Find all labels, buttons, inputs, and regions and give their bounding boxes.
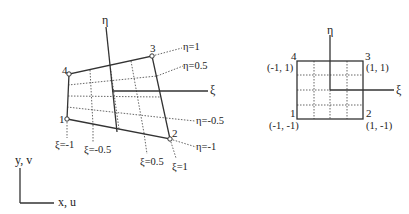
xi-0.5-label: ξ=0.5 <box>140 156 164 168</box>
node-3-label: 3 <box>150 42 156 54</box>
ref-node-1-coords: (-1, -1) <box>269 120 299 132</box>
xi-neg0.5-line <box>90 70 93 125</box>
xi-axis-label: ξ <box>210 83 216 97</box>
physical-element: η ξ 1 2 3 4 η=1 η=0.5 η=-0.5 η=-1 ξ=-1 ξ… <box>55 13 224 173</box>
node-2-label: 2 <box>172 127 178 139</box>
xi-1-extension <box>170 139 176 158</box>
ref-node-1-label: 1 <box>290 107 296 119</box>
node-1 <box>65 117 69 121</box>
ref-eta-axis-label: η <box>327 23 333 37</box>
node-3 <box>150 54 154 58</box>
eta-1-label: η=1 <box>183 41 200 52</box>
node-4-label: 4 <box>62 64 68 76</box>
reference-element: η ξ 1 2 3 4 (-1, -1) (1, -1) (1, 1) (-1,… <box>267 23 402 132</box>
eta-axis-label: η <box>102 13 108 27</box>
xi-neg1-label: ξ=-1 <box>55 139 74 151</box>
eta-0.5-extension <box>157 66 183 76</box>
eta-neg1-label: η=-1 <box>196 141 216 152</box>
eta-neg0.5-label: η=-0.5 <box>196 115 224 126</box>
ref-node-3-coords: (1, 1) <box>366 62 389 74</box>
eta-1-extension <box>152 48 182 56</box>
xi-0.5-extension <box>144 133 147 154</box>
eta-neg0.5-line <box>67 107 166 118</box>
y-axis-label: y, v <box>15 153 32 167</box>
x-axis-label: x, u <box>58 195 76 209</box>
eta-0.5-label: η=0.5 <box>183 60 208 71</box>
isoparametric-mapping-diagram: η ξ 1 2 3 4 η=1 η=0.5 η=-0.5 η=-1 ξ=-1 ξ… <box>0 0 409 214</box>
xi-0.5-line <box>131 61 144 133</box>
ref-node-2-coords: (1, -1) <box>366 120 393 132</box>
eta-neg1-extension <box>170 139 196 147</box>
global-axes: y, v x, u <box>15 153 76 209</box>
ref-node-2-label: 2 <box>366 107 372 119</box>
ref-node-3-label: 3 <box>365 50 371 62</box>
ref-node-4-coords: (-1, 1) <box>267 62 294 74</box>
xi-neg0.5-label: ξ=-0.5 <box>84 144 111 156</box>
node-1-label: 1 <box>59 113 65 125</box>
element-boundary <box>67 56 170 139</box>
eta-neg0.5-extension <box>166 118 195 121</box>
ref-node-4-label: 4 <box>291 50 297 62</box>
xi-1-label: ξ=1 <box>172 161 188 173</box>
ref-xi-axis-label: ξ <box>396 83 402 97</box>
eta-axis <box>106 27 117 132</box>
